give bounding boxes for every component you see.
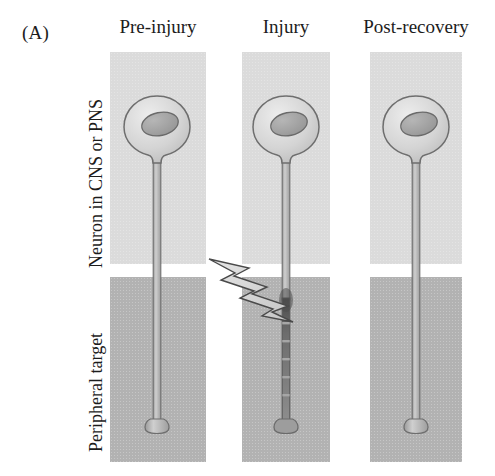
column-header-injury: Injury [242, 16, 330, 38]
texture-overlay [242, 52, 330, 264]
row-label-neuron: Neuron in CNS or PNS [86, 99, 107, 268]
texture-overlay [110, 277, 206, 462]
panel-background-pre-injury-lower [110, 277, 206, 462]
panel-background-post-recovery-upper [370, 52, 462, 264]
texture-overlay [370, 277, 462, 462]
panel-background-post-recovery-lower [370, 277, 462, 462]
panel-background-injury-upper [242, 52, 330, 264]
texture-overlay [110, 52, 206, 264]
panel-background-injury-lower [242, 277, 330, 462]
figure-panel-a: (A) Pre-injury Injury Post-recovery Neur… [0, 0, 495, 476]
column-header-post-recovery: Post-recovery [362, 16, 470, 38]
panel-background-pre-injury-upper [110, 52, 206, 264]
panel-letter: (A) [22, 22, 49, 44]
row-label-peripheral-target: Peripheral target [86, 333, 107, 452]
texture-overlay [370, 52, 462, 264]
texture-overlay [242, 277, 330, 462]
column-header-pre-injury: Pre-injury [110, 16, 206, 38]
